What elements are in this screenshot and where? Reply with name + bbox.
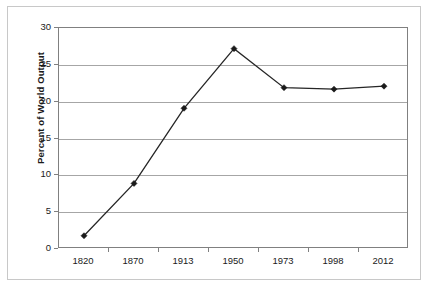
- x-axis-tick-label: 1998: [308, 255, 358, 266]
- y-axis-tick-label: 10: [11, 169, 51, 179]
- x-axis-tick-mark: [358, 248, 359, 252]
- y-axis-tick-label: 5: [11, 206, 51, 216]
- y-axis-tick-label: 20: [11, 96, 51, 106]
- series-line: [84, 49, 384, 236]
- x-axis-tick-label: 1950: [208, 255, 258, 266]
- y-axis-tick-label: 30: [11, 22, 51, 32]
- y-axis-tick-mark: [54, 248, 58, 249]
- x-axis-tick-mark: [308, 248, 309, 252]
- y-axis-tick-label: 0: [11, 243, 51, 253]
- chart-figure: Percent of World Output 051015202530 182…: [0, 0, 429, 289]
- series-markers: [81, 46, 387, 239]
- x-axis-tick-label: 2012: [358, 255, 408, 266]
- x-axis-tick-label: 1870: [108, 255, 158, 266]
- y-axis-tick-label: 15: [11, 133, 51, 143]
- y-axis-tick-label: 25: [11, 59, 51, 69]
- x-axis-tick-label: 1820: [58, 255, 108, 266]
- x-axis-tick-mark: [258, 248, 259, 252]
- plot-area: [58, 27, 408, 248]
- x-axis-tick-label: 1913: [158, 255, 208, 266]
- x-axis-tick-mark: [108, 248, 109, 252]
- data-point-marker: [381, 83, 387, 89]
- x-axis-tick-mark: [208, 248, 209, 252]
- x-axis-tick-mark: [158, 248, 159, 252]
- data-point-marker: [331, 86, 337, 92]
- x-axis-tick-label: 1973: [258, 255, 308, 266]
- series-graphic: [59, 28, 409, 249]
